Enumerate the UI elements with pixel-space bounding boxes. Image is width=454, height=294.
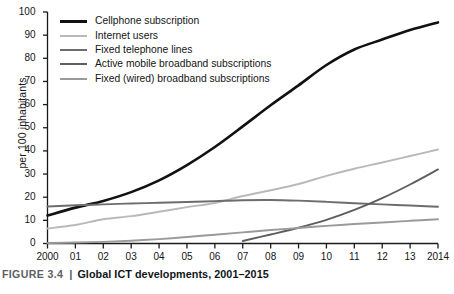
y-tick-label: 20 bbox=[10, 191, 36, 202]
y-tick-label: 10 bbox=[10, 214, 36, 225]
legend-item-4: Fixed (wired) broadband subscriptions bbox=[60, 72, 320, 86]
x-tick-label: 2014 bbox=[418, 251, 454, 262]
y-tick-label: 90 bbox=[10, 29, 36, 40]
legend-item-0: Cellphone subscription bbox=[60, 14, 320, 28]
legend-item-1: Internet users bbox=[60, 28, 320, 42]
x-tick-marks bbox=[48, 244, 439, 249]
y-tick-label: 60 bbox=[10, 98, 36, 109]
legend-label: Cellphone subscription bbox=[95, 15, 199, 27]
legend-label: Active mobile broadband subscriptions bbox=[95, 58, 271, 70]
y-tick-label: 50 bbox=[10, 121, 36, 132]
legend-swatch-line-icon bbox=[60, 35, 87, 37]
y-tick-label: 70 bbox=[10, 75, 36, 86]
caption-figure-number: FIGURE 3.4 bbox=[2, 268, 63, 280]
y-tick-marks bbox=[43, 12, 48, 244]
legend-item-2: Fixed telephone lines bbox=[60, 43, 320, 57]
series-line-1 bbox=[48, 150, 439, 229]
legend-swatch-line-icon bbox=[60, 63, 87, 65]
chart-legend: Cellphone subscriptionInternet usersFixe… bbox=[60, 14, 320, 86]
legend-swatch-line-icon bbox=[60, 20, 87, 23]
caption-separator: | bbox=[69, 268, 72, 280]
y-tick-label: 0 bbox=[10, 237, 36, 248]
legend-label: Fixed telephone lines bbox=[95, 44, 192, 56]
legend-item-3: Active mobile broadband subscriptions bbox=[60, 57, 320, 71]
legend-label: Fixed (wired) broadband subscriptions bbox=[95, 73, 270, 85]
caption-title-text: Global ICT developments, 2001–2015 bbox=[77, 268, 268, 280]
legend-swatch-line-icon bbox=[60, 78, 87, 80]
legend-swatch-line-icon bbox=[60, 49, 87, 51]
y-tick-label: 80 bbox=[10, 52, 36, 63]
y-tick-label: 30 bbox=[10, 168, 36, 179]
figure-caption: FIGURE 3.4 | Global ICT developments, 20… bbox=[2, 268, 445, 280]
legend-label: Internet users bbox=[95, 30, 158, 42]
chart-area: per 100 inhabitants 01020304050607080901… bbox=[0, 0, 447, 262]
series-line-4 bbox=[48, 219, 439, 243]
y-tick-label: 100 bbox=[10, 6, 36, 17]
y-tick-label: 40 bbox=[10, 144, 36, 155]
